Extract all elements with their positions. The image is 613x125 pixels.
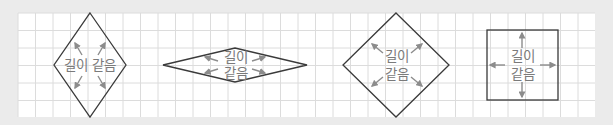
equal-length-label: 길이 같음 bbox=[64, 57, 116, 73]
equal-length-label-line2: 같음 bbox=[385, 66, 409, 82]
equal-length-label-line1: 길이 bbox=[511, 48, 535, 64]
equal-length-label-line1: 길이 bbox=[385, 48, 409, 64]
equal-length-label-line2: 같음 bbox=[511, 66, 535, 82]
equal-length-label-line1: 길이 bbox=[224, 49, 248, 65]
equal-length-label-line2: 같음 bbox=[224, 65, 248, 81]
shapes-diagram: 길이 같음 길이 같음 길이 같음 길이 같음 bbox=[0, 0, 613, 125]
